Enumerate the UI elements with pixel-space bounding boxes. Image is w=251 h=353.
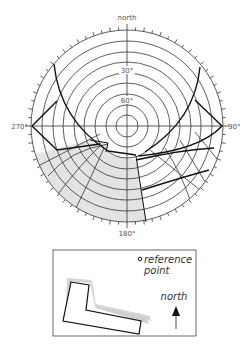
tick-mark	[152, 30, 153, 33]
tick-mark	[168, 213, 169, 216]
tick-mark	[144, 221, 145, 225]
tick-mark	[182, 205, 184, 207]
tick-mark	[217, 159, 221, 160]
tick-mark	[31, 100, 34, 101]
tick-mark	[101, 30, 102, 33]
reference-label-line1: reference	[144, 254, 192, 265]
north-arrow-label: north	[161, 291, 188, 302]
tick-mark	[175, 39, 177, 42]
tick-mark	[37, 84, 40, 85]
tick-mark	[195, 194, 197, 196]
azimuth-axes	[25, 24, 229, 228]
tick-mark	[33, 92, 37, 93]
north-label: north	[118, 14, 137, 22]
tick-mark	[144, 28, 145, 32]
tick-mark	[50, 62, 53, 65]
tick-mark	[57, 194, 59, 196]
tick-mark	[210, 174, 213, 176]
tick-mark	[214, 167, 217, 168]
tick-mark	[85, 213, 86, 216]
south-180-label: 180°	[119, 230, 136, 238]
tick-mark	[93, 216, 94, 220]
tick-mark	[77, 209, 79, 212]
tick-mark	[63, 200, 66, 203]
left-arc-line	[54, 64, 108, 151]
tick-mark	[201, 188, 204, 191]
tick-mark	[33, 159, 37, 160]
tick-mark	[93, 32, 94, 36]
tick-mark	[110, 221, 111, 225]
altitude-30-label: 30°	[121, 67, 133, 75]
tick-mark	[222, 143, 226, 144]
tick-mark	[195, 56, 197, 58]
tick-mark	[206, 181, 208, 183]
east-90-label: 90°	[228, 123, 240, 131]
tick-mark	[220, 100, 223, 101]
tick-mark	[168, 36, 169, 39]
tick-mark	[77, 39, 79, 42]
tick-mark	[46, 69, 48, 71]
tick-mark	[40, 174, 43, 176]
tick-mark	[214, 84, 217, 85]
tick-mark	[210, 76, 213, 78]
tick-mark	[217, 92, 221, 93]
tick-mark	[70, 45, 72, 47]
tick-mark	[189, 49, 192, 52]
tick-mark	[175, 209, 177, 212]
tick-mark	[206, 69, 208, 71]
tick-mark	[46, 181, 48, 183]
west-270-label: 270°	[11, 123, 28, 131]
sun-path-diagram: north 90° 180° 270° 30° 60° reference po…	[0, 0, 251, 353]
tick-mark	[182, 45, 184, 47]
tick-mark	[85, 36, 86, 39]
tick-mark	[220, 151, 223, 152]
tick-mark	[29, 109, 33, 110]
site-plan-legend: reference point north	[53, 250, 196, 336]
tick-mark	[70, 205, 72, 207]
tick-mark	[57, 56, 59, 58]
tick-mark	[37, 167, 40, 168]
tick-mark	[29, 143, 33, 144]
tick-mark	[63, 49, 66, 52]
tick-mark	[189, 200, 192, 203]
tick-mark	[160, 216, 161, 220]
tick-mark	[31, 151, 34, 152]
tick-mark	[110, 28, 111, 32]
altitude-60-label: 60°	[121, 97, 133, 105]
reference-point-dot	[138, 257, 142, 261]
tick-mark	[222, 109, 226, 110]
tick-mark	[201, 62, 204, 65]
tick-mark	[160, 32, 161, 36]
tick-mark	[50, 188, 53, 191]
tick-mark	[152, 219, 153, 222]
tick-mark	[101, 219, 102, 222]
tick-mark	[40, 76, 43, 78]
reference-label-line2: point	[143, 265, 171, 276]
